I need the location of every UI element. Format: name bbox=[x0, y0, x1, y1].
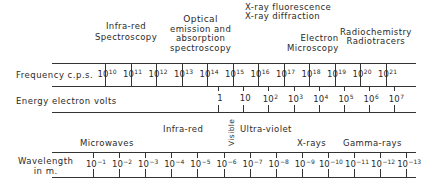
energy-value: 105 bbox=[338, 93, 353, 104]
band-microwaves: Microwaves bbox=[80, 139, 134, 148]
frequency-value: 1016 bbox=[251, 68, 270, 79]
label-radiochemistry: Radiochemistry Radiotracers bbox=[340, 28, 412, 46]
label-line: Radiotracers bbox=[340, 37, 412, 46]
band-infrared: Infra-red bbox=[163, 125, 203, 134]
wavelength-row-label: Wavelength in m. bbox=[18, 156, 73, 176]
energy-tick-bottom bbox=[344, 105, 345, 112]
energy-row-label: Energy electron volts bbox=[16, 96, 117, 106]
frequency-value: 1014 bbox=[200, 68, 219, 79]
wavelength-tick-bottom bbox=[224, 169, 225, 177]
wavelength-value: 10−4 bbox=[164, 158, 184, 169]
label-xray-methods: X-ray fluorescence X-ray diffraction bbox=[245, 3, 331, 21]
energy-tick-bottom bbox=[394, 105, 395, 112]
energy-tick-bottom bbox=[243, 105, 244, 112]
wavelength-tick-bottom bbox=[197, 169, 198, 177]
energy-tick-top bbox=[268, 86, 269, 91]
energy-value: 1 bbox=[217, 93, 222, 103]
frequency-value: 1011 bbox=[123, 68, 142, 79]
band-visible: Visible bbox=[227, 119, 236, 146]
energy-tick-bottom bbox=[369, 105, 370, 112]
energy-value: 106 bbox=[364, 93, 379, 104]
wavelength-tick-bottom bbox=[145, 169, 146, 177]
frequency-value: 1021 bbox=[378, 68, 397, 79]
energy-bottom-line bbox=[52, 112, 416, 113]
frequency-bottom-line bbox=[52, 86, 416, 87]
energy-value: 103 bbox=[288, 93, 303, 104]
wavelength-tick-bottom bbox=[119, 169, 120, 177]
wavelength-tick-bottom bbox=[250, 169, 251, 177]
energy-tick-top bbox=[218, 86, 219, 91]
energy-value: 10 bbox=[240, 93, 251, 103]
wavelength-value: 10−12 bbox=[371, 158, 395, 169]
wavelength-value: 10−8 bbox=[269, 158, 289, 169]
wavelength-value: 10−9 bbox=[295, 158, 315, 169]
wavelength-value: 10−11 bbox=[345, 158, 369, 169]
label-electron-microscopy: Electron Microscopy bbox=[287, 34, 339, 53]
frequency-value: 1018 bbox=[302, 68, 321, 79]
wavelength-tick-bottom bbox=[328, 169, 329, 177]
wavelength-tick-bottom bbox=[93, 169, 94, 177]
wavelength-top-line bbox=[52, 152, 416, 153]
energy-tick-top bbox=[394, 86, 395, 91]
band-xrays: X-rays bbox=[297, 139, 326, 148]
frequency-row-label: Frequency c.p.s. bbox=[16, 70, 93, 80]
energy-tick-top bbox=[369, 86, 370, 91]
frequency-value: 1010 bbox=[98, 68, 117, 79]
energy-value: 104 bbox=[313, 93, 328, 104]
label-line: Infra-red bbox=[95, 22, 157, 31]
label-line: Electron bbox=[287, 34, 339, 43]
energy-tick-top bbox=[243, 86, 244, 91]
energy-tick-bottom bbox=[218, 105, 219, 112]
label-optical-spectroscopy: Optical emission and absorption spectros… bbox=[170, 15, 231, 53]
wavelength-value: 10−2 bbox=[112, 158, 132, 169]
wavelength-value: 10−7 bbox=[243, 158, 263, 169]
label-line: X-ray diffraction bbox=[245, 12, 331, 21]
wavelength-value: 10−6 bbox=[216, 158, 236, 169]
frequency-value: 1020 bbox=[353, 68, 372, 79]
wavelength-tick-bottom bbox=[406, 169, 407, 177]
label-line: Wavelength bbox=[18, 156, 73, 166]
wavelength-value: 10−1 bbox=[86, 158, 106, 169]
wavelength-bottom-line bbox=[52, 177, 416, 178]
label-line: in m. bbox=[18, 166, 73, 176]
energy-tick-bottom bbox=[294, 105, 295, 112]
energy-value: 102 bbox=[263, 93, 278, 104]
frequency-value: 1017 bbox=[276, 68, 295, 79]
wavelength-value: 10−10 bbox=[319, 158, 343, 169]
wavelength-value: 10−3 bbox=[138, 158, 158, 169]
band-ultraviolet: Ultra-violet bbox=[240, 125, 292, 134]
energy-value: 107 bbox=[389, 93, 404, 104]
band-gamma: Gamma-rays bbox=[343, 139, 402, 148]
frequency-value: 1013 bbox=[174, 68, 193, 79]
frequency-value: 1012 bbox=[149, 68, 168, 79]
energy-tick-bottom bbox=[268, 105, 269, 112]
wavelength-tick-bottom bbox=[302, 169, 303, 177]
label-line: spectroscopy bbox=[170, 44, 231, 54]
energy-tick-top bbox=[344, 86, 345, 91]
energy-tick-top bbox=[294, 86, 295, 91]
wavelength-tick-bottom bbox=[276, 169, 277, 177]
frequency-top-line bbox=[52, 63, 416, 64]
wavelength-value: 10−5 bbox=[190, 158, 210, 169]
energy-tick-top bbox=[319, 86, 320, 91]
wavelength-value: 10−13 bbox=[397, 158, 421, 169]
energy-tick-bottom bbox=[319, 105, 320, 112]
frequency-value: 1019 bbox=[327, 68, 346, 79]
wavelength-tick-bottom bbox=[354, 169, 355, 177]
wavelength-tick-bottom bbox=[171, 169, 172, 177]
wavelength-tick-bottom bbox=[380, 169, 381, 177]
label-line: Microscopy bbox=[287, 44, 339, 53]
label-line: Spectroscopy bbox=[95, 33, 157, 42]
frequency-value: 1015 bbox=[225, 68, 244, 79]
label-infrared-spectroscopy: Infra-red Spectroscopy bbox=[95, 22, 157, 42]
